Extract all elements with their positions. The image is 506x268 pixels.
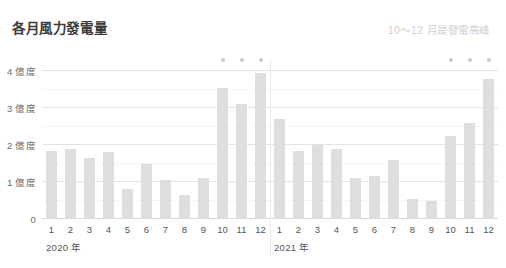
bar-slot[interactable] bbox=[460, 60, 479, 219]
y-axis-tick-4: 4 億度 bbox=[7, 64, 36, 78]
bar-slot[interactable] bbox=[42, 60, 61, 219]
x-axis-month-tick: 7 bbox=[384, 221, 403, 235]
x-axis-month-tick: 12 bbox=[251, 221, 270, 235]
x-axis-month-tick: 2 bbox=[289, 221, 308, 235]
bar-groups bbox=[42, 60, 498, 219]
page-title: 各月風力發電量 bbox=[12, 17, 107, 37]
bar-slot[interactable] bbox=[289, 60, 308, 219]
bar-slot[interactable] bbox=[137, 60, 156, 219]
y-axis-labels: 01 億度2 億度3 億度4 億度 bbox=[0, 60, 40, 219]
x-axis-month-tick: 2 bbox=[61, 221, 80, 235]
x-axis-month-tick: 3 bbox=[80, 221, 99, 235]
x-axis-month-tick: 11 bbox=[460, 221, 479, 235]
x-axis-month-tick: 11 bbox=[232, 221, 251, 235]
x-axis-month-tick: 3 bbox=[308, 221, 327, 235]
x-axis-month-tick: 9 bbox=[422, 221, 441, 235]
bar[interactable] bbox=[312, 145, 323, 219]
bar-slot[interactable] bbox=[175, 60, 194, 219]
x-axis-year-label: 2021 年 bbox=[274, 240, 310, 254]
bar-slot[interactable] bbox=[365, 60, 384, 219]
x-axis-month-tick: 6 bbox=[137, 221, 156, 235]
y-axis-tick-0: 0 bbox=[30, 214, 36, 225]
x-axis-month-tick: 10 bbox=[441, 221, 460, 235]
bar[interactable] bbox=[293, 151, 304, 219]
bar[interactable] bbox=[483, 79, 494, 220]
x-axis-month-tick: 10 bbox=[213, 221, 232, 235]
y-axis-tick-2: 2 億度 bbox=[7, 138, 36, 152]
bar-slot[interactable] bbox=[479, 60, 498, 219]
x-axis: 1234567891011122020 年1234567891011122021… bbox=[42, 221, 498, 265]
peak-marker-dot bbox=[259, 58, 263, 62]
bar[interactable] bbox=[46, 151, 57, 219]
peak-marker-dot bbox=[221, 58, 225, 62]
bar-slot[interactable] bbox=[118, 60, 137, 219]
bar[interactable] bbox=[103, 152, 114, 219]
x-axis-month-tick: 4 bbox=[99, 221, 118, 235]
bar-slot[interactable] bbox=[384, 60, 403, 219]
bar-slot[interactable] bbox=[156, 60, 175, 219]
x-axis-month-tick: 9 bbox=[194, 221, 213, 235]
bar-slot[interactable] bbox=[270, 60, 289, 219]
bar[interactable] bbox=[255, 73, 266, 219]
bar[interactable] bbox=[122, 189, 133, 219]
bar[interactable] bbox=[141, 164, 152, 219]
peak-marker-dot bbox=[449, 58, 453, 62]
bar[interactable] bbox=[217, 88, 228, 219]
bar-slot[interactable] bbox=[232, 60, 251, 219]
peak-marker-dot bbox=[468, 58, 472, 62]
bar[interactable] bbox=[331, 149, 342, 219]
wind-power-chart-card: 各月風力發電量 10～12 月是發電高峰 01 億度2 億度3 億度4 億度 1… bbox=[0, 0, 506, 268]
peak-marker-dot bbox=[487, 58, 491, 62]
bar-slot[interactable] bbox=[422, 60, 441, 219]
peak-marker-dot bbox=[240, 58, 244, 62]
bar-slot[interactable] bbox=[327, 60, 346, 219]
bar-slot[interactable] bbox=[80, 60, 99, 219]
y-axis-tick-1: 1 億度 bbox=[7, 175, 36, 189]
bar[interactable] bbox=[464, 123, 475, 219]
bar-slot[interactable] bbox=[403, 60, 422, 219]
bar[interactable] bbox=[350, 178, 361, 219]
bar-slot[interactable] bbox=[251, 60, 270, 219]
x-axis-year-label: 2020 年 bbox=[46, 240, 82, 254]
bar-slot[interactable] bbox=[308, 60, 327, 219]
bar[interactable] bbox=[84, 158, 95, 219]
bar[interactable] bbox=[445, 136, 456, 219]
x-axis-month-tick: 6 bbox=[365, 221, 384, 235]
x-axis-month-tick: 8 bbox=[403, 221, 422, 235]
x-axis-month-tick: 12 bbox=[479, 221, 498, 235]
bar-group-2020年 bbox=[42, 60, 270, 219]
bar[interactable] bbox=[426, 201, 437, 219]
bar[interactable] bbox=[274, 119, 285, 219]
bar-slot[interactable] bbox=[346, 60, 365, 219]
bar[interactable] bbox=[65, 149, 76, 219]
bar[interactable] bbox=[388, 160, 399, 219]
y-axis-tick-3: 3 億度 bbox=[7, 101, 36, 115]
bar[interactable] bbox=[369, 176, 380, 219]
bar[interactable] bbox=[407, 199, 418, 219]
bar-slot[interactable] bbox=[213, 60, 232, 219]
x-axis-month-tick: 1 bbox=[42, 221, 61, 235]
chart-annotation-note: 10～12 月是發電高峰 bbox=[388, 22, 490, 37]
bar[interactable] bbox=[198, 178, 209, 219]
bar-slot[interactable] bbox=[441, 60, 460, 219]
plot-area bbox=[42, 60, 498, 219]
x-axis-group: 1234567891011122021 年 bbox=[270, 221, 498, 265]
x-axis-month-tick: 8 bbox=[175, 221, 194, 235]
bar-group-2021年 bbox=[270, 60, 498, 219]
x-axis-month-tick: 5 bbox=[118, 221, 137, 235]
bar-slot[interactable] bbox=[61, 60, 80, 219]
x-axis-month-tick: 4 bbox=[327, 221, 346, 235]
bar[interactable] bbox=[236, 104, 247, 219]
bar[interactable] bbox=[179, 195, 190, 219]
x-axis-month-tick: 1 bbox=[270, 221, 289, 235]
bar-slot[interactable] bbox=[194, 60, 213, 219]
x-axis-group: 1234567891011122020 年 bbox=[42, 221, 270, 265]
x-axis-month-tick: 7 bbox=[156, 221, 175, 235]
x-axis-month-tick: 5 bbox=[346, 221, 365, 235]
bar[interactable] bbox=[160, 180, 171, 219]
bar-slot[interactable] bbox=[99, 60, 118, 219]
